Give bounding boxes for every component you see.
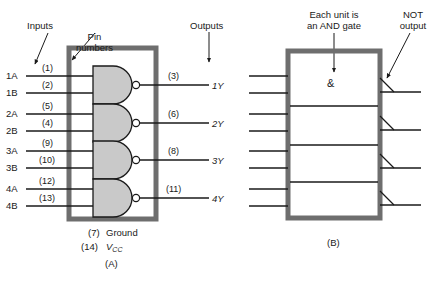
outputs-annotation-label: Outputs	[190, 20, 223, 31]
not-output-annotation-label: NOT output	[392, 9, 434, 31]
pin-number-5: (5)	[42, 101, 53, 112]
nand-gate-3	[93, 141, 209, 179]
not-output-leader	[387, 33, 410, 78]
input-label-2b: 2B	[6, 125, 18, 136]
panel-a-caption: (A)	[105, 258, 118, 269]
input-label-3b: 3B	[6, 162, 18, 173]
vcc-pin-label: VCC	[106, 241, 122, 255]
pin-number-10: (10)	[39, 155, 55, 166]
nand-bubble-4	[132, 194, 139, 201]
input-label-4a: 4A	[6, 183, 18, 194]
input-label-2a: 2A	[6, 108, 18, 119]
panel-b-caption: (B)	[327, 237, 340, 248]
nand-gate-2	[93, 104, 209, 142]
input-label-4b: 4B	[6, 200, 18, 211]
pin-number-1: (1)	[42, 63, 53, 74]
pin-number-9: (9)	[42, 138, 53, 149]
output-label-1y: 1Y	[212, 80, 224, 91]
ground-pin-number: (7)	[88, 227, 100, 238]
output-label-3y: 3Y	[212, 155, 224, 166]
nand-gate-4	[93, 179, 209, 217]
pin-number-4: (4)	[42, 118, 53, 129]
pin-number-8: (8)	[168, 146, 179, 157]
pin-numbers-line-1: Pin numbers	[76, 31, 113, 53]
iec-symbol-box	[288, 51, 380, 218]
output-label-4y: 4Y	[212, 193, 224, 204]
ground-pin-label: Ground	[106, 227, 138, 238]
input-label-3a: 3A	[6, 145, 18, 156]
output-label-2y: 2Y	[212, 118, 224, 129]
nand-bubble-1	[132, 81, 139, 88]
input-label-1b: 1B	[6, 87, 18, 98]
nand-bubble-3	[132, 156, 139, 163]
panel-b-not-outputs	[380, 78, 421, 205]
panel-b-leader-arrows	[334, 33, 410, 78]
pin-number-13: (13)	[39, 193, 55, 204]
panel-b-input-lines	[249, 76, 288, 206]
inputs-annotation-label: Inputs	[27, 20, 53, 31]
vcc-subscript: CC	[112, 246, 122, 253]
pin-numbers-annotation-label: Pin numbers	[76, 9, 113, 75]
pin-number-11: (11)	[166, 184, 181, 195]
pin-number-12: (12)	[39, 176, 55, 187]
panel-a-input-lines	[26, 76, 93, 206]
input-label-1a: 1A	[6, 70, 18, 81]
nand-bubble-2	[132, 119, 139, 126]
inputs-leader	[35, 33, 48, 64]
figure-root: Inputs Pin numbers Outputs 1A 1B 2A 2B 3…	[0, 0, 436, 288]
and-gate-annotation-label: Each unit is an AND gate	[291, 9, 377, 31]
pin-number-6: (6)	[168, 109, 179, 120]
pin-number-3: (3)	[168, 71, 179, 82]
figure-drawing	[0, 0, 436, 288]
vcc-pin-number: (14)	[81, 241, 98, 252]
pin-number-2: (2)	[42, 80, 53, 91]
and-symbol: &	[327, 78, 334, 89]
